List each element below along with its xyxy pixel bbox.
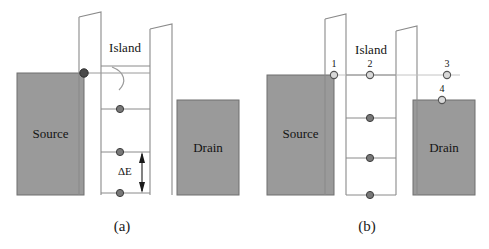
island-label: Island [85,40,165,56]
electron-dot-level-2 [116,105,123,112]
panel-a-graphics [0,0,244,249]
source-electrode [17,73,84,195]
panel-a: Source Drain Island ΔE (a) [0,0,244,249]
electron-dot-level-2 [366,114,373,121]
point-marker-3 [443,71,450,78]
point-marker-4 [438,96,445,103]
electron-dot-level-4 [366,191,373,198]
electron-dot-level-4 [116,189,123,196]
point-marker-1 [330,71,337,78]
electron-dot-source [80,69,88,77]
panel-a-caption: (a) [0,218,244,235]
panel-b-graphics [245,0,489,249]
panel-b: Source Drain Island 1 2 3 4 (b) [245,0,489,249]
delta-e-label: ΔE [118,165,132,177]
electron-dot-level-3 [116,148,123,155]
tunneling-arc-icon [112,67,124,90]
point-label-2: 2 [363,58,377,69]
point-marker-2 [366,71,373,78]
source-electrode [267,75,334,195]
delta-e-arrowhead-up [139,152,145,163]
point-label-1: 1 [327,58,341,69]
drain-electrode [413,100,475,195]
point-label-4: 4 [435,83,449,94]
point-label-3: 3 [440,58,454,69]
panel-b-caption: (b) [245,218,489,235]
delta-e-arrowhead-down [139,182,145,193]
island-label: Island [331,42,411,58]
figure-root: Source Drain Island ΔE (a) [0,0,489,249]
electron-dot-level-3 [366,154,373,161]
drain-electrode [177,100,239,195]
